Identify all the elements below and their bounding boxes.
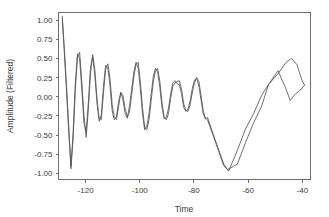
- y-tick-label: -1.00: [34, 169, 53, 178]
- y-tick-label: -0.75: [34, 150, 53, 159]
- y-tick-label: 0.00: [37, 93, 53, 102]
- x-tick-label: -100: [132, 186, 149, 195]
- y-tick-label: 0.75: [37, 35, 53, 44]
- x-tick-label: -60: [242, 186, 254, 195]
- y-tick-label: -0.50: [34, 131, 53, 140]
- x-tick-label: -120: [78, 186, 95, 195]
- chart-background: [0, 0, 329, 217]
- y-axis-title: Amplitude (Filtered): [5, 59, 15, 133]
- line-chart: 1.000.750.500.250.00-0.25-0.50-0.75-1.00…: [0, 0, 329, 217]
- chart-figure: 1.000.750.500.250.00-0.25-0.50-0.75-1.00…: [0, 0, 329, 217]
- x-axis-title: Time: [175, 204, 194, 214]
- x-tick-label: -80: [188, 186, 200, 195]
- y-tick-label: 0.50: [37, 54, 53, 63]
- x-tick-label: -40: [297, 186, 309, 195]
- y-tick-label: 1.00: [37, 16, 53, 25]
- y-tick-label: 0.25: [37, 74, 53, 83]
- y-tick-label: -0.25: [34, 112, 53, 121]
